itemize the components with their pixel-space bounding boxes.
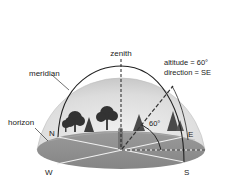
compass-south-label: S xyxy=(184,168,189,177)
celestial-sphere-diagram: zenith meridian horizon altitude = 60° d… xyxy=(0,0,230,185)
angle-label: 60° xyxy=(149,119,160,128)
altitude-label: altitude = 60° xyxy=(164,58,208,67)
meridian-label: meridian xyxy=(29,69,60,78)
zenith-label: zenith xyxy=(110,49,131,58)
horizon-label: horizon xyxy=(8,118,34,127)
compass-north-label: N xyxy=(49,129,55,138)
direction-label: direction = SE xyxy=(164,68,211,77)
compass-west-label: W xyxy=(45,168,53,177)
compass-east-label: E xyxy=(188,130,193,139)
